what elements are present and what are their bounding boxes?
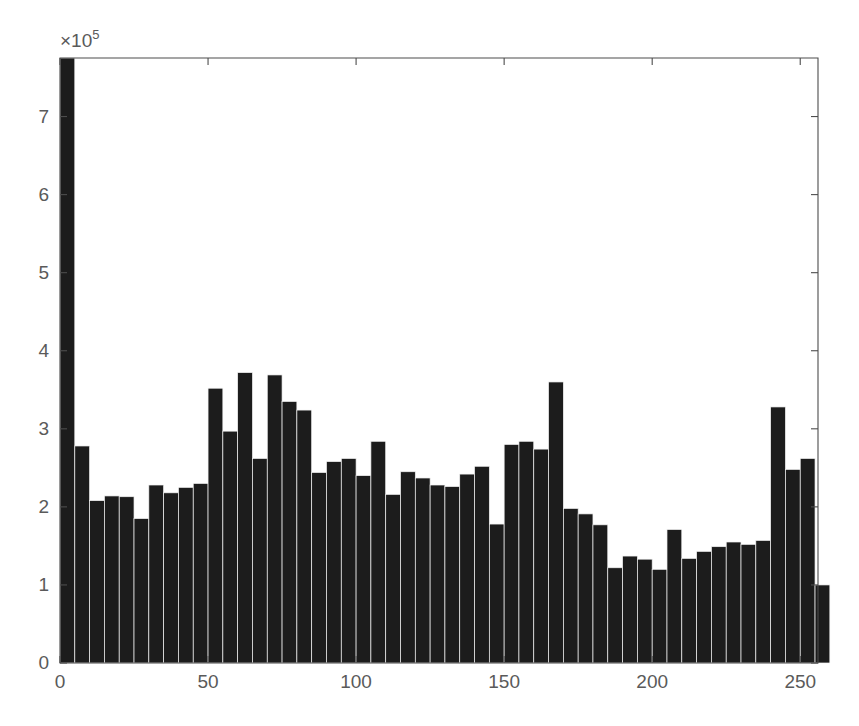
histogram-bar <box>800 458 815 663</box>
x-tick-label: 250 <box>784 671 816 692</box>
histogram-bar <box>238 373 253 663</box>
histogram-bar <box>356 476 371 663</box>
histogram-bar <box>623 556 638 663</box>
y-tick-label: 4 <box>38 340 49 361</box>
histogram-bar <box>75 446 90 663</box>
histogram-bar <box>326 462 341 663</box>
histogram-bar <box>371 441 386 663</box>
histogram-bar <box>60 58 75 663</box>
x-tick-label: 0 <box>55 671 66 692</box>
y-tick-label: 0 <box>38 652 49 673</box>
x-tick-label: 50 <box>197 671 218 692</box>
histogram-bar <box>549 382 564 663</box>
y-tick-label: 3 <box>38 418 49 439</box>
histogram-bar <box>223 431 238 663</box>
histogram-bar <box>386 494 401 663</box>
histogram-bar <box>697 551 712 663</box>
histogram-bar <box>208 388 223 663</box>
histogram-bar <box>430 485 445 663</box>
histogram-bar <box>267 375 282 663</box>
histogram-bar <box>608 568 623 663</box>
histogram-bar <box>578 514 593 663</box>
x-tick-label: 150 <box>488 671 520 692</box>
y-tick-label: 7 <box>38 106 49 127</box>
histogram-chart: 01234567 050100150200250 ×105 <box>0 0 859 726</box>
histogram-bar <box>682 558 697 663</box>
histogram-bar <box>312 473 327 663</box>
histogram-bar <box>563 508 578 663</box>
y-tick-label: 6 <box>38 184 49 205</box>
histogram-bar <box>341 458 356 663</box>
histogram-bar <box>252 458 267 663</box>
histogram-bar <box>785 469 800 663</box>
histogram-bar <box>741 544 756 663</box>
histogram-bar <box>771 407 786 663</box>
histogram-bar <box>178 487 193 663</box>
histogram-bar <box>401 472 416 663</box>
y-tick-label: 5 <box>38 262 49 283</box>
histogram-bar <box>593 525 608 663</box>
histogram-bar <box>90 501 105 663</box>
histogram-bar <box>534 449 549 663</box>
histogram-bars-group <box>60 58 830 663</box>
histogram-bar <box>164 493 179 663</box>
histogram-bar <box>445 487 460 663</box>
histogram-bar <box>134 519 149 663</box>
histogram-bar <box>193 483 208 663</box>
histogram-bar <box>711 547 726 663</box>
histogram-bar <box>415 478 430 663</box>
figure-canvas: 01234567 050100150200250 ×105 <box>0 0 859 726</box>
histogram-bar <box>667 530 682 663</box>
y-axis-multiplier-label: ×105 <box>60 27 99 51</box>
x-tick-label: 200 <box>636 671 668 692</box>
histogram-bar <box>119 497 134 663</box>
histogram-bar <box>519 441 534 663</box>
histogram-bar <box>726 542 741 663</box>
histogram-bar <box>637 559 652 663</box>
histogram-bar <box>756 540 771 663</box>
histogram-bar <box>282 401 297 663</box>
histogram-bar <box>475 466 490 663</box>
histogram-bar <box>504 444 519 663</box>
y-tick-label: 2 <box>38 496 49 517</box>
histogram-bar <box>460 474 475 663</box>
histogram-bar <box>815 585 830 663</box>
histogram-bar <box>104 496 119 663</box>
y-tick-label: 1 <box>38 574 49 595</box>
histogram-bar <box>297 410 312 663</box>
histogram-bar <box>489 524 504 663</box>
x-tick-label: 100 <box>340 671 372 692</box>
histogram-bar <box>652 569 667 663</box>
histogram-bar <box>149 485 164 663</box>
